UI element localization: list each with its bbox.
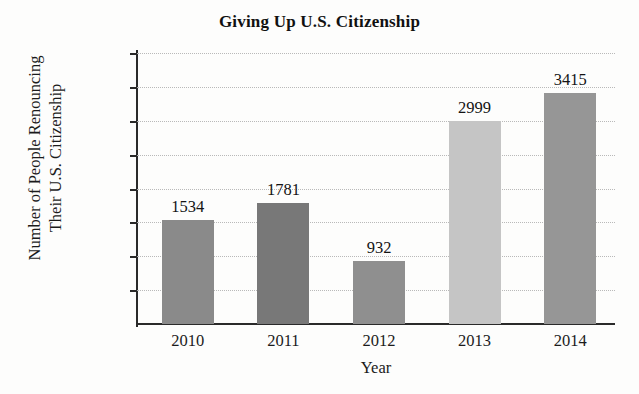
y-axis-tick (130, 87, 137, 89)
y-axis-title-line-1: Number of People Renouncing (24, 23, 45, 293)
y-axis-title-line-2: Their U.S. Citizenship (45, 23, 66, 293)
bar-chart-figure: Giving Up U.S. Citizenship Number of Peo… (0, 0, 639, 394)
x-axis-tick-label: 2011 (241, 331, 325, 350)
x-axis-tick-label: 2013 (433, 331, 517, 350)
bar-value-label: 932 (339, 239, 419, 256)
y-axis-title: Number of People Renouncing Their U.S. C… (24, 23, 70, 293)
plot-area: 5001000150020002500300035004000153417819… (137, 53, 615, 324)
bar-value-label: 1781 (243, 181, 323, 198)
y-axis-tick (130, 189, 137, 191)
y-axis-tick (130, 121, 137, 123)
x-axis-title: Year (137, 358, 615, 378)
bar (257, 203, 309, 324)
y-axis-tick (130, 155, 137, 157)
bar (449, 121, 501, 324)
bar (162, 220, 214, 324)
bar-value-label: 2999 (435, 99, 515, 116)
y-axis-tick (130, 290, 137, 292)
y-axis-tick (130, 256, 137, 258)
x-axis-tick-label: 2010 (146, 331, 230, 350)
bar-value-label: 1534 (148, 198, 228, 215)
chart-title: Giving Up U.S. Citizenship (0, 12, 639, 32)
bar-value-label: 3415 (530, 71, 610, 88)
y-axis-tick (130, 222, 137, 224)
x-axis-tick-label: 2012 (337, 331, 421, 350)
bar (544, 93, 596, 324)
gridline (137, 53, 615, 54)
y-axis-tick (130, 53, 137, 55)
bar (353, 261, 405, 324)
x-axis-tick-label: 2014 (528, 331, 612, 350)
